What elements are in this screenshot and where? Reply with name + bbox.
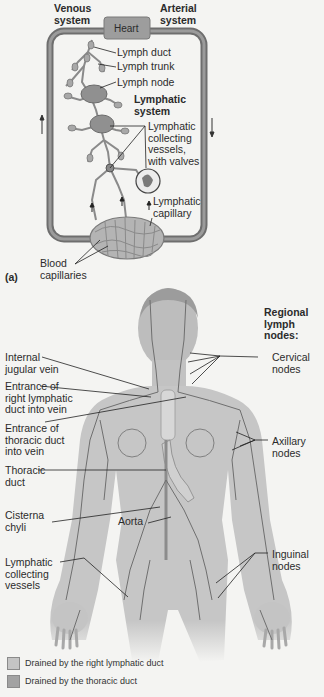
lymphatic-collecting-vessels-label: Lymphatic collecting vessels — [5, 557, 52, 592]
internal-jugular-vein-label: Internal jugular vein — [5, 352, 59, 375]
cisterna-chyli-label: Cisterna chyli — [5, 510, 44, 533]
legend-label: Drained by the right lymphatic duct — [25, 658, 164, 668]
legend-right-lymphatic-duct: Drained by the right lymphatic duct — [7, 656, 164, 670]
swatch-dark-gray — [7, 675, 20, 688]
thoracic-duct-entrance-label: Entrance of thoracic duct into vein — [5, 423, 65, 458]
inguinal-nodes-label: Inguinal nodes — [272, 549, 309, 572]
axillary-nodes-label: Axillary nodes — [272, 436, 306, 459]
thoracic-duct-label: Thoracic duct — [5, 465, 45, 488]
regional-lymph-nodes-title: Regional lymph nodes: — [264, 307, 308, 342]
swatch-light-gray — [7, 657, 20, 670]
right-lymphatic-duct-entrance-label: Entrance of right lymphatic duct into ve… — [5, 381, 73, 416]
body-lymphatic-diagram — [0, 0, 324, 697]
cervical-nodes-label: Cervical nodes — [272, 352, 310, 375]
aorta-label: Aorta — [118, 516, 143, 528]
legend-thoracic-duct: Drained by the thoracic duct — [7, 674, 137, 688]
legend-label: Drained by the thoracic duct — [25, 676, 137, 686]
